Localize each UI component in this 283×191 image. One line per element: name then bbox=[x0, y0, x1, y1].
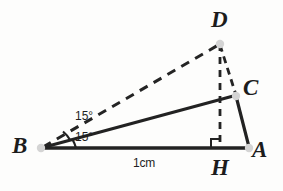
angle-label-DBC: 15° bbox=[75, 110, 93, 122]
vertex-dot-B bbox=[37, 144, 45, 152]
vertex-label-C: C bbox=[243, 76, 258, 99]
vertex-dot-D bbox=[216, 40, 224, 48]
vertex-label-B: B bbox=[12, 134, 27, 157]
angle-label-CBA: 15° bbox=[75, 131, 93, 143]
vertex-label-H: H bbox=[211, 156, 229, 179]
segment-CA bbox=[236, 96, 249, 147]
geometry-figure: B A H C D 15° 15° 1cm bbox=[0, 0, 283, 191]
vertex-dot-C bbox=[232, 92, 240, 100]
vertex-label-A: A bbox=[252, 138, 267, 161]
length-label-BA: 1cm bbox=[133, 157, 155, 169]
vertex-label-D: D bbox=[211, 8, 228, 31]
segment-DC bbox=[220, 45, 236, 95]
segment-BD bbox=[43, 44, 220, 147]
